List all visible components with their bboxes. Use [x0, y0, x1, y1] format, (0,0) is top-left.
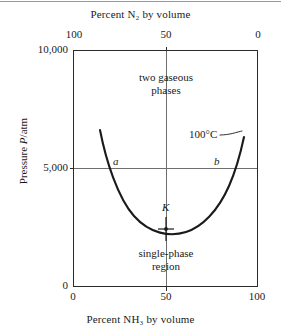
- isotherm-curve-path: [100, 130, 244, 234]
- plot-area: two gaseous phases single-phase region 1…: [73, 50, 258, 287]
- phase-diagram-figure: Percent N₂ by volume Percent NH₃ by volu…: [0, 0, 281, 335]
- y-tick-label-0: 0: [2, 279, 68, 291]
- top-axis-title: Percent N₂ by volume: [0, 8, 281, 20]
- y-tick-label-5000: 5,000: [2, 161, 68, 173]
- y-axis-title-suffix: /atm: [17, 118, 29, 138]
- bottom-axis-title: Percent NH₃ by volume: [0, 313, 281, 325]
- top-tick-label-100: 100: [60, 28, 88, 40]
- point-label-K: K: [162, 201, 169, 214]
- point-label-a: a: [113, 155, 119, 168]
- top-tick-label-0: 0: [244, 28, 272, 40]
- point-label-b: b: [214, 155, 220, 168]
- bottom-tick-label-50: 50: [152, 290, 180, 302]
- region-label-two-gaseous-phases: two gaseous phases: [139, 71, 193, 97]
- y-axis-title-symbol: P: [17, 137, 29, 144]
- y-axis-title: Pressure P/atm: [17, 81, 29, 221]
- isotherm-temperature-label: 100°C: [189, 128, 217, 141]
- y-tick-label-10000: 10,000: [2, 43, 68, 55]
- isotherm-label-leader-line: [220, 131, 242, 135]
- region-label-two-gaseous-phases-line1: two gaseous: [139, 71, 193, 84]
- bottom-tick-label-100: 100: [243, 290, 271, 302]
- top-tick-label-50: 50: [152, 28, 180, 40]
- region-label-two-gaseous-phases-line2: phases: [139, 84, 193, 97]
- region-label-single-phase-region-line1: single-phase: [139, 247, 194, 260]
- bottom-tick-label-0: 0: [59, 290, 87, 302]
- region-label-single-phase-region-line2: region: [139, 260, 194, 273]
- top-divider-rule: [0, 1, 281, 2]
- region-label-single-phase-region: single-phase region: [139, 247, 194, 273]
- critical-point-dot: [164, 227, 168, 231]
